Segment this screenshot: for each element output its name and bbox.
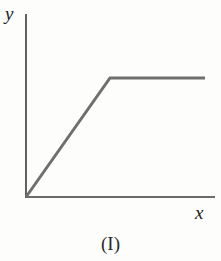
y-axis-label: y — [5, 4, 13, 23]
figure-caption: (I) — [0, 234, 221, 254]
figure-container: y x (I) — [0, 0, 221, 261]
axes-group — [25, 14, 215, 197]
piecewise-linear-curve — [26, 78, 205, 197]
x-axis-label: x — [195, 203, 203, 222]
plot-canvas — [0, 0, 221, 261]
curve-group — [26, 78, 205, 197]
